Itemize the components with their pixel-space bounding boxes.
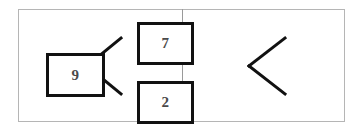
node-left-parent-label: 9 [72, 68, 80, 83]
node-left-child-top[interactable]: 7 [137, 22, 194, 65]
node-left-child-bottom-label: 2 [162, 95, 170, 110]
diagram-root: 9 7 2 10 7 3 [0, 0, 362, 132]
panel-right: 10 7 3 [183, 9, 345, 122]
node-left-child-top-label: 7 [162, 36, 170, 51]
panel-left: 9 7 2 [18, 9, 182, 122]
node-left-child-bottom[interactable]: 2 [137, 81, 194, 124]
node-left-parent[interactable]: 9 [46, 53, 105, 97]
